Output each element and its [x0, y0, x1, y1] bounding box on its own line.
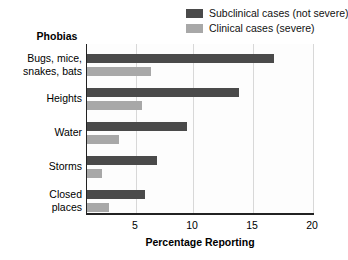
category-label-water: Water [0, 126, 82, 138]
legend-item-subclinical: Subclinical cases (not severe) [186, 7, 348, 20]
x-axis-title: Percentage Reporting [86, 236, 314, 248]
bar-subclinical-heights [87, 88, 239, 97]
legend-label-clinical: Clinical cases (severe) [209, 23, 315, 34]
bar-subclinical-water [87, 122, 187, 131]
bar-subclinical-bugs [87, 54, 274, 63]
category-label-storms: Storms [0, 160, 82, 172]
bar-clinical-storms [87, 169, 102, 178]
plot-area [86, 44, 314, 214]
x-tick-15: 15 [237, 219, 267, 231]
y-axis-labels: Bugs, mice, snakes, bats Heights Water S… [0, 44, 82, 214]
legend-swatch-subclinical [186, 9, 203, 18]
bar-subclinical-storms [87, 156, 157, 165]
y-axis-title: Phobias [30, 30, 84, 42]
chart-legend: Subclinical cases (not severe) Clinical … [186, 7, 348, 37]
legend-swatch-clinical [186, 24, 203, 33]
bar-subclinical-closed-places [87, 190, 145, 199]
bar-clinical-closed-places [87, 203, 109, 212]
category-label-bugs-line2: snakes, bats [0, 65, 82, 77]
category-label-closed-line1: Closed [0, 188, 82, 200]
bar-clinical-water [87, 135, 119, 144]
x-axis-tick-labels: 5 10 15 20 [0, 219, 336, 233]
bar-clinical-bugs [87, 67, 151, 76]
x-axis-line [86, 213, 314, 215]
legend-item-clinical: Clinical cases (severe) [186, 22, 348, 35]
category-label-heights: Heights [0, 92, 82, 104]
x-tick-5: 5 [120, 219, 150, 231]
bar-rows [87, 44, 314, 214]
category-label-bugs-line1: Bugs, mice, [0, 52, 82, 64]
bar-clinical-heights [87, 101, 142, 110]
category-label-closed-line2: places [0, 201, 82, 213]
legend-label-subclinical: Subclinical cases (not severe) [209, 8, 348, 19]
x-tick-20: 20 [297, 219, 327, 231]
x-tick-10: 10 [177, 219, 207, 231]
